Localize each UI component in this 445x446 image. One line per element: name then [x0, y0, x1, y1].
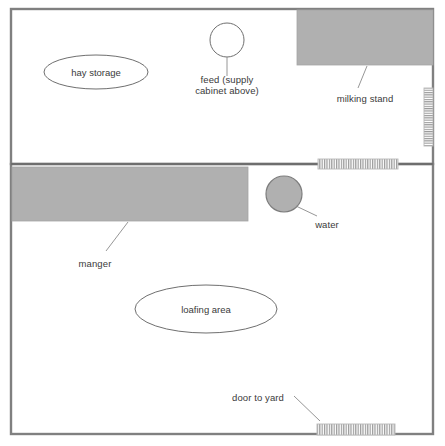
fixtures-group — [12, 10, 433, 333]
manger-label: manger — [79, 258, 112, 269]
milking-stand-block — [297, 10, 433, 65]
floor-plan-canvas — [0, 0, 445, 446]
door-right-wall — [424, 88, 433, 146]
manger-leader-line — [106, 222, 128, 251]
door-to-yard — [317, 424, 395, 435]
feed-label: feed (supply cabinet above) — [195, 74, 259, 96]
door-between-rooms — [318, 159, 398, 169]
doors-group — [317, 88, 433, 435]
milking-stand-leader-line — [358, 66, 367, 88]
manger-block — [12, 167, 248, 221]
hay-storage-label: hay storage — [71, 67, 121, 78]
loafing-area-label: loafing area — [181, 304, 231, 315]
water-label: water — [315, 219, 339, 230]
door-to-yard-label: door to yard — [232, 392, 284, 403]
water-leader-line — [296, 206, 317, 216]
floor-plan-diagram: hay storage feed (supply cabinet above) … — [0, 0, 445, 446]
milking-stand-label: milking stand — [337, 93, 394, 104]
door-to-yard-leader-line — [294, 396, 320, 421]
feed-bin — [210, 23, 244, 57]
leader-lines-group — [106, 57, 367, 421]
